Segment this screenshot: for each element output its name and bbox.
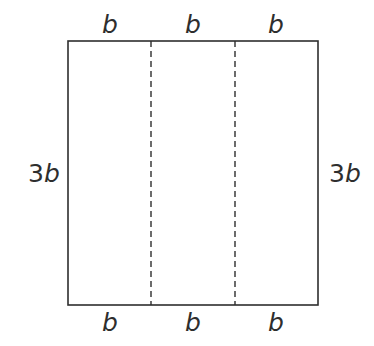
left-side-label-variable: b: [44, 159, 60, 188]
bottom-edge-label-left: b: [102, 310, 118, 335]
left-side-label-number: 3: [28, 159, 44, 188]
top-edge-label-middle: b: [185, 12, 201, 37]
right-side-label-number: 3: [329, 159, 345, 188]
left-side-label: 3b: [28, 161, 60, 186]
bottom-edge-label-middle: b: [185, 310, 201, 335]
figure-stage: b b b b b b 3b 3b: [0, 0, 374, 346]
top-edge-label-left: b: [102, 12, 118, 37]
rectangle-outline: [68, 41, 318, 305]
right-side-label-variable: b: [345, 159, 361, 188]
right-side-label: 3b: [329, 161, 361, 186]
bottom-edge-label-right: b: [268, 310, 284, 335]
top-edge-label-right: b: [268, 12, 284, 37]
